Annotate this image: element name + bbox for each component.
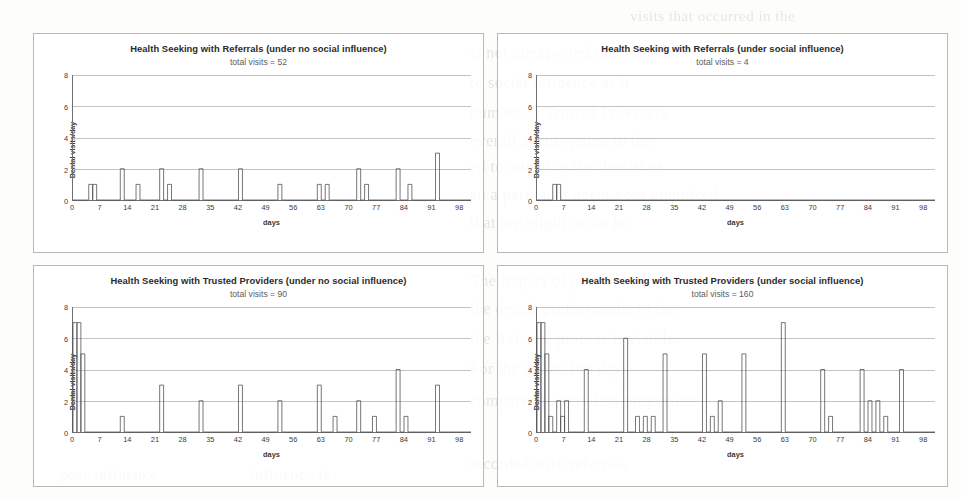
x-tick-label: 14	[587, 203, 595, 212]
x-tick-label: 56	[289, 435, 297, 444]
x-tick-label: 7	[98, 203, 102, 212]
bars-series	[73, 75, 471, 200]
x-tick-label: 21	[151, 435, 159, 444]
x-axis-label: days	[72, 450, 471, 459]
x-tick-label: 7	[562, 203, 566, 212]
y-tick-label: 2	[64, 165, 68, 174]
x-tick-label: 49	[261, 435, 269, 444]
x-tick-label: 0	[534, 203, 538, 212]
x-tick-label: 56	[753, 435, 761, 444]
y-tick-label: 6	[64, 102, 68, 111]
series-step-outline	[537, 184, 935, 200]
x-tick-label: 91	[427, 203, 435, 212]
x-tick-label: 91	[427, 435, 435, 444]
x-tick-label: 70	[808, 435, 816, 444]
y-tick-label: 2	[64, 397, 68, 406]
chart-card-trusted-social: Health Seeking with Trusted Providers (u…	[497, 265, 948, 487]
y-tick-label: 2	[528, 397, 532, 406]
plot-area	[72, 307, 471, 433]
x-tick-label: 21	[615, 203, 623, 212]
x-axis-label: days	[536, 218, 935, 227]
x-tick-label: 98	[455, 203, 463, 212]
chart-subtitle-total-visits: total visits = 90	[34, 289, 483, 299]
chart-grid: Health Seeking with Referrals (under no …	[0, 0, 961, 487]
y-tick-label: 4	[64, 366, 68, 375]
x-tick-label: 42	[234, 435, 242, 444]
x-tick-label: 84	[864, 203, 872, 212]
chart-card-referrals-no-social: Health Seeking with Referrals (under no …	[33, 33, 484, 253]
chart-subtitle-total-visits: total visits = 52	[34, 57, 483, 67]
x-tick-label: 42	[234, 203, 242, 212]
plot-area	[536, 307, 935, 433]
chart-card-referrals-social: Health Seeking with Referrals (under soc…	[497, 33, 948, 253]
x-tick-label: 91	[891, 435, 899, 444]
plot-wrapper: Dental visits/day02468071421283542495663…	[506, 75, 937, 225]
x-axis-label: days	[536, 450, 935, 459]
x-tick-label: 63	[317, 435, 325, 444]
x-tick-label: 14	[123, 203, 131, 212]
x-tick-label: 0	[70, 435, 74, 444]
y-tick-label: 4	[528, 366, 532, 375]
x-tick-label: 21	[151, 203, 159, 212]
plot-wrapper: Dental visits/day02468071421283542495663…	[42, 307, 473, 457]
y-axis-ticks: 02468	[520, 307, 534, 433]
y-axis-ticks: 02468	[56, 307, 70, 433]
x-tick-label: 84	[400, 435, 408, 444]
x-tick-label: 14	[587, 435, 595, 444]
x-axis-ticks: 0714212835424956637077849198	[72, 203, 471, 215]
plot-area	[536, 75, 935, 201]
x-tick-label: 98	[919, 203, 927, 212]
y-axis-ticks: 02468	[520, 75, 534, 201]
bars-series	[73, 307, 471, 432]
x-tick-label: 35	[206, 435, 214, 444]
y-tick-label: 8	[528, 71, 532, 80]
x-tick-label: 28	[642, 203, 650, 212]
x-tick-label: 77	[372, 203, 380, 212]
x-tick-label: 70	[344, 203, 352, 212]
x-tick-label: 70	[808, 203, 816, 212]
x-tick-label: 28	[178, 435, 186, 444]
x-tick-label: 77	[836, 203, 844, 212]
chart-title: Health Seeking with Referrals (under no …	[34, 43, 483, 54]
y-tick-label: 8	[64, 303, 68, 312]
y-tick-label: 0	[64, 197, 68, 206]
x-tick-label: 49	[725, 435, 733, 444]
x-tick-label: 42	[698, 203, 706, 212]
x-tick-label: 63	[781, 435, 789, 444]
scanned-page: visits that occurred in theis not unexpe…	[0, 0, 961, 500]
y-tick-label: 6	[64, 334, 68, 343]
x-tick-label: 84	[400, 203, 408, 212]
y-tick-label: 0	[528, 429, 532, 438]
y-tick-label: 6	[528, 102, 532, 111]
x-tick-label: 70	[344, 435, 352, 444]
series-step-outline	[73, 323, 471, 432]
y-tick-label: 4	[528, 134, 532, 143]
x-tick-label: 56	[753, 203, 761, 212]
x-tick-label: 91	[891, 203, 899, 212]
x-tick-label: 98	[455, 435, 463, 444]
x-tick-label: 0	[70, 203, 74, 212]
chart-subtitle-total-visits: total visits = 160	[498, 289, 947, 299]
y-tick-label: 4	[64, 134, 68, 143]
chart-subtitle-total-visits: total visits = 4	[498, 57, 947, 67]
x-tick-label: 35	[670, 203, 678, 212]
x-tick-label: 21	[615, 435, 623, 444]
chart-title: Health Seeking with Trusted Providers (u…	[34, 275, 483, 286]
x-tick-label: 49	[725, 203, 733, 212]
bars-series	[537, 75, 935, 200]
x-tick-label: 84	[864, 435, 872, 444]
x-tick-label: 35	[670, 435, 678, 444]
x-tick-label: 98	[919, 435, 927, 444]
bars-series	[537, 307, 935, 432]
x-axis-ticks: 0714212835424956637077849198	[72, 435, 471, 447]
series-step-outline	[537, 323, 935, 432]
x-tick-label: 56	[289, 203, 297, 212]
x-tick-label: 28	[178, 203, 186, 212]
y-tick-label: 0	[528, 197, 532, 206]
chart-title: Health Seeking with Trusted Providers (u…	[498, 275, 947, 286]
chart-card-trusted-no-social: Health Seeking with Trusted Providers (u…	[33, 265, 484, 487]
x-tick-label: 14	[123, 435, 131, 444]
plot-area	[72, 75, 471, 201]
x-tick-label: 7	[98, 435, 102, 444]
y-tick-label: 6	[528, 334, 532, 343]
